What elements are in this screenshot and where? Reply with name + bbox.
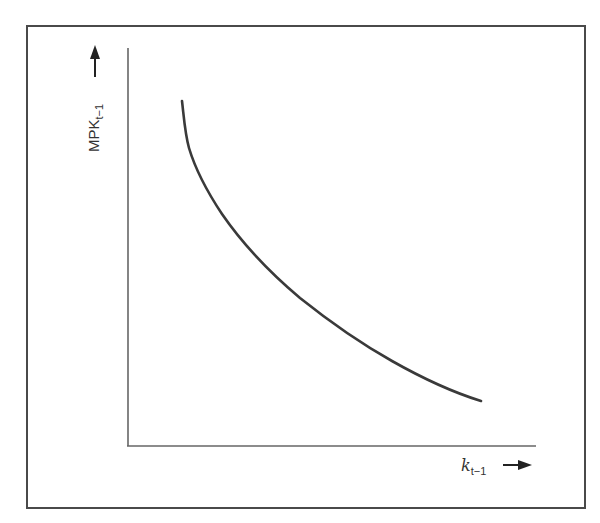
mpk-curve — [182, 101, 481, 401]
diagram-canvas — [0, 0, 600, 523]
x-axis-label-main: k — [461, 456, 471, 475]
x-axis-label: kt−1 — [461, 456, 486, 477]
y-axis-label-subscript: t−1 — [93, 104, 105, 120]
right-arrow-icon — [503, 460, 532, 470]
up-arrow-icon — [90, 45, 100, 77]
y-axis-label: MPKt−1 — [85, 104, 105, 152]
x-axis-label-subscript: t−1 — [471, 465, 487, 477]
y-axis-label-main: MPK — [85, 120, 102, 153]
